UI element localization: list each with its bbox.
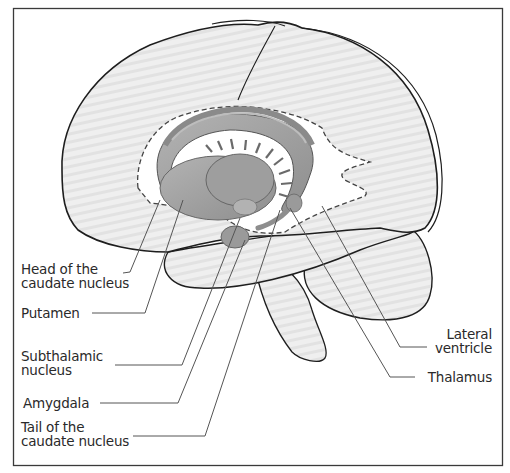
label-subthalamic-nucleus: Subthalamic nucleus	[21, 349, 103, 377]
label-lateral-ventricle: Lateral ventricle	[435, 327, 492, 355]
label-amygdala: Amygdala	[23, 396, 89, 410]
label-line: Thalamus	[428, 370, 492, 384]
label-line: caudate nucleus	[21, 276, 129, 290]
label-head-of-caudate: Head of the caudate nucleus	[21, 262, 129, 290]
label-line: Subthalamic	[21, 349, 103, 363]
thalamus	[206, 154, 274, 206]
amygdala	[221, 226, 249, 248]
brain-diagram: Head of the caudate nucleus Putamen Subt…	[0, 0, 510, 473]
label-line: Head of the	[21, 262, 129, 276]
label-line: Lateral	[435, 327, 492, 341]
label-line: caudate nucleus	[21, 434, 129, 448]
label-line: Putamen	[21, 306, 80, 320]
label-line: nucleus	[21, 363, 103, 377]
label-tail-of-caudate: Tail of the caudate nucleus	[21, 420, 129, 448]
label-line: Tail of the	[21, 420, 129, 434]
label-line: ventricle	[435, 341, 492, 355]
label-thalamus: Thalamus	[428, 370, 492, 384]
label-putamen: Putamen	[21, 306, 80, 320]
subthalamic-nucleus	[233, 199, 257, 215]
label-line: Amygdala	[23, 396, 89, 410]
